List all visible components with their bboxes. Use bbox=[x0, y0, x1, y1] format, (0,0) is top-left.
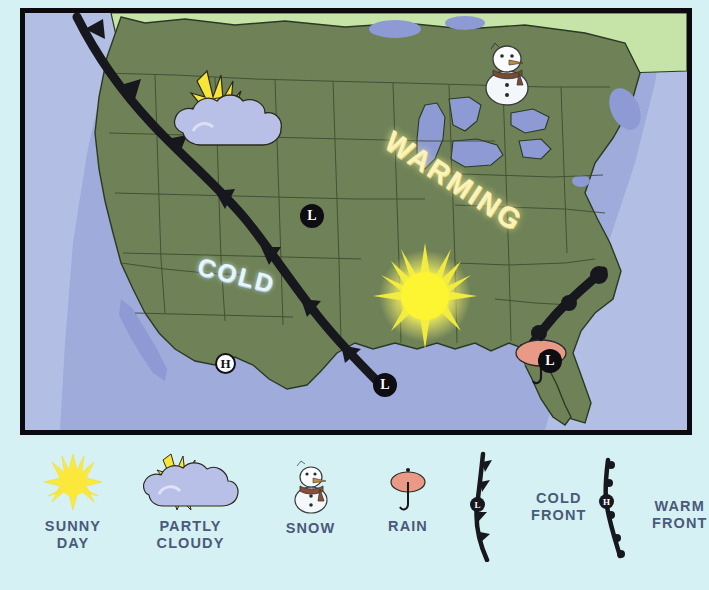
legend-label-warm-front: WARM FRONT bbox=[652, 498, 707, 532]
weather-map: COLD WARMING H L L L bbox=[20, 8, 692, 435]
legend-label-rain: RAIN bbox=[358, 518, 458, 535]
legend-label-line1: WARM bbox=[652, 498, 707, 515]
legend-item-cold-front: L COLD FRONT bbox=[455, 450, 595, 560]
pressure-marker-low-southeast: L bbox=[538, 349, 562, 373]
legend-label-line1: SNOW bbox=[258, 520, 363, 537]
warm-front-high-marker: H bbox=[599, 494, 614, 509]
legend-label-cold-front: COLD FRONT bbox=[531, 490, 586, 524]
legend-label-line2: FRONT bbox=[652, 515, 707, 532]
legend-label-line2: FRONT bbox=[531, 507, 586, 524]
partly-cloudy-icon bbox=[128, 452, 253, 518]
cold-front-icon bbox=[455, 450, 525, 562]
sunny-icon bbox=[18, 452, 128, 518]
cold-front-low-marker: L bbox=[470, 497, 485, 512]
legend-label-line2: DAY bbox=[18, 535, 128, 552]
legend-label-line2: CLOUDY bbox=[128, 535, 253, 552]
weather-map-page: COLD WARMING H L L L bbox=[0, 0, 709, 590]
map-graphic bbox=[25, 13, 687, 430]
legend-label-partly-cloudy: PARTLY CLOUDY bbox=[128, 518, 253, 552]
snow-icon bbox=[258, 458, 363, 520]
legend-item-snow: SNOW bbox=[258, 458, 363, 537]
rain-icon bbox=[358, 464, 458, 518]
legend-label-line1: SUNNY bbox=[18, 518, 128, 535]
legend-label-sunny: SUNNY DAY bbox=[18, 518, 128, 552]
pressure-marker-low-gulf: L bbox=[373, 373, 397, 397]
legend-label-snow: SNOW bbox=[258, 520, 363, 537]
legend-item-partly-cloudy: PARTLY CLOUDY bbox=[128, 452, 253, 552]
legend-item-rain: RAIN bbox=[358, 464, 458, 535]
pressure-marker-high: H bbox=[215, 353, 236, 374]
pressure-marker-low-north: L bbox=[300, 204, 324, 228]
warm-front-icon bbox=[590, 456, 646, 564]
legend-item-sunny: SUNNY DAY bbox=[18, 452, 128, 552]
legend-label-line1: RAIN bbox=[358, 518, 458, 535]
legend-item-warm-front: H WARM FRONT bbox=[590, 456, 708, 566]
map-legend: SUNNY DAY PARTLY CLOUDY bbox=[0, 446, 709, 590]
legend-label-line1: PARTLY bbox=[128, 518, 253, 535]
legend-label-line1: COLD bbox=[531, 490, 586, 507]
